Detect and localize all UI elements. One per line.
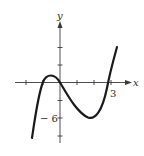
y-axis-arrow-icon (58, 21, 63, 28)
y-axis-label: y (56, 10, 63, 21)
x-axis-label: x (133, 77, 139, 88)
function-curve (32, 47, 117, 138)
y-tick-label-neg6: − 6 (40, 113, 58, 124)
function-graph: y x 3 − 6 (0, 0, 144, 156)
x-axis-arrow-icon (125, 80, 132, 85)
x-tick-label-3: 3 (110, 88, 116, 99)
